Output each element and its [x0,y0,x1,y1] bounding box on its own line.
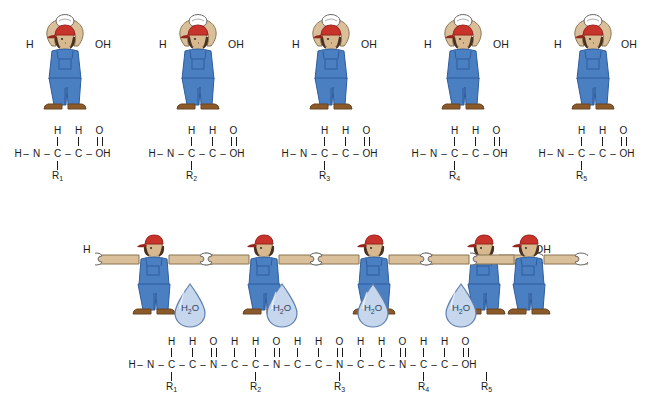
chain-bond-res3-nh [291,348,304,357]
formula-1-n: N [30,147,43,160]
chain-res5-alpha-c: C [417,358,430,371]
amino-acid-3-right-label: OH [361,38,377,50]
bond-carbonyl-double-5 [617,137,630,146]
chain-res2-n-h: H [228,335,241,348]
amino-acid-figure-1 [22,12,108,120]
chain-terminal-oh: OH [459,358,479,371]
chain-bond-res1-ah [186,348,199,357]
bond-n-h-2 [185,137,198,146]
formula-3-r-group: R3 [318,169,331,185]
chain-res4-carbonyl-c: C [375,358,388,371]
water-droplet-2-label: H2O [264,302,300,315]
chain-res2-alpha-h: H [249,335,262,348]
formula-4-carbonyl-c: C [469,147,482,160]
formula-2-carbonyl-c: C [206,147,219,160]
chain-bond-res3-co [333,348,346,357]
formula-5-h-left: H [538,147,546,160]
bond-n-h-5 [575,137,588,146]
bond-alpha-h-4 [469,137,482,146]
formula-5-oh: OH [617,147,637,160]
formula-5-carbonyl-c: C [596,147,609,160]
formula-5-alpha-c: C [575,147,588,160]
chain-res2-n: N [207,358,220,371]
amino-acid-1-right-label: OH [95,38,111,50]
water-droplet-4: H2O [443,282,479,328]
chain-res5-carbonyl-o: O [459,335,472,348]
formula-1-h-left: H [14,147,22,160]
bond-carbonyl-double-3 [360,137,373,146]
bond-alpha-h-2 [206,137,219,146]
chain-bond-res2-nh [228,348,241,357]
chain-res1-carbonyl-o: O [207,335,220,348]
chain-res3-carbonyl-c: C [312,358,325,371]
chain-res4-alpha-c: C [354,358,367,371]
chain-res1-alpha-h: H [186,335,199,348]
top-amino-acid-row: H OH [0,0,658,200]
chain-bond-res1-co [207,348,220,357]
bond-carbonyl-double-1 [93,137,106,146]
chain-res5-alpha-h: H [438,335,451,348]
formula-3-alpha-h: H [339,124,352,137]
chain-res4-n: N [333,358,346,371]
water-droplet-3-label: H2O [355,302,391,315]
formula-5-carbonyl-o: O [617,124,630,137]
formula-4-carbonyl-o: O [490,124,503,137]
formula-5-alpha-h: H [596,124,609,137]
amino-acid-4-right-label: OH [493,38,509,50]
formula-2-h-left: H [148,147,156,160]
polypeptide-chain-formula: H H O H H O H H O H H O H H O [128,335,493,394]
chain-bond-res4-ah [375,348,388,357]
water-droplet-3: H2O [355,282,391,328]
bond-carbonyl-double-4 [490,137,503,146]
amino-acid-figure-3 [288,12,374,120]
amino-acid-formula-3: H H O H– N– C– C– OH [281,124,380,183]
formula-4-r-group: R4 [448,169,461,185]
bond-n-h-3 [318,137,331,146]
formula-1-carbonyl-o: O [93,124,106,137]
amino-acid-figure-4 [420,12,506,120]
chain-res4-carbonyl-o: O [396,335,409,348]
bond-alpha-h-5 [596,137,609,146]
formula-1-oh: OH [93,147,113,160]
chain-res4-alpha-h: H [375,335,388,348]
water-droplet-2: H2O [264,282,300,328]
chain-res3-r-group: R3 [333,380,346,396]
formula-4-alpha-c: C [448,147,461,160]
chain-terminal-h-label: H [83,243,91,255]
formula-4-h-left: H [411,147,419,160]
formula-2-alpha-h: H [206,124,219,137]
formula-3-oh: OH [360,147,380,160]
formula-2-n-h: H [185,124,198,137]
chain-res5-n-h: H [417,335,430,348]
amino-acid-5-right-label: OH [621,38,637,50]
bond-n-h-4 [448,137,461,146]
formula-2-carbonyl-o: O [227,124,240,137]
chain-bond-res5-nh [417,348,430,357]
amino-acid-5-left-label: H [554,38,562,50]
formula-4-n: N [427,147,440,160]
chain-bond-res2-ah [249,348,262,357]
formula-5-r-group: R5 [575,169,588,185]
chain-res2-carbonyl-c: C [249,358,262,371]
chain-res2-alpha-c: C [228,358,241,371]
amino-acid-figure-2 [155,12,241,120]
chain-terminal-h: H [128,358,136,371]
formula-3-h-left: H [281,147,289,160]
chain-bond-res5-co [459,348,472,357]
water-droplet-1-label: H2O [172,302,208,315]
amino-acid-formula-1: H H O H– N– C– C– OH [14,124,113,183]
chain-bond-res2-co [270,348,283,357]
chain-res1-carbonyl-c: C [186,358,199,371]
chain-bond-res4-nh [354,348,367,357]
formula-1-alpha-c: C [51,147,64,160]
amino-acid-formula-2: H H O H– N– C– C– OH [148,124,247,183]
chain-bond-res3-ah [312,348,325,357]
formula-4-n-h: H [448,124,461,137]
amino-acid-1-left-label: H [26,38,34,50]
chain-bond-res1-nh [165,348,178,357]
chain-res1-alpha-c: C [165,358,178,371]
amino-acid-4-left-label: H [424,38,432,50]
chain-res1-n: N [144,358,157,371]
formula-1-carbonyl-c: C [72,147,85,160]
chain-res5-carbonyl-c: C [438,358,451,371]
